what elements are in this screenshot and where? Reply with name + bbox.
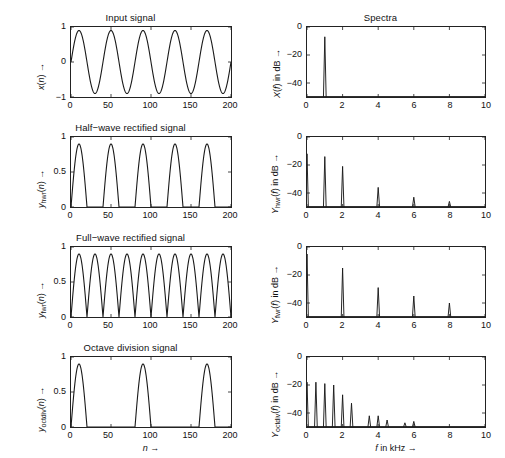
xlabel-time-domain: n → <box>70 443 232 453</box>
ytick-spec-fwr-0: 0 <box>280 242 302 251</box>
ytick-hwr-1: 1 <box>44 132 66 141</box>
xtick-spec-fwr-8: 8 <box>442 321 458 330</box>
xtick-hwr-0: 0 <box>62 211 78 220</box>
xtick-input-200: 200 <box>218 101 242 110</box>
xtick-spec-oct-6: 6 <box>406 431 422 440</box>
xtick-spec-hwr-6: 6 <box>406 211 422 220</box>
axes-spectrum-full-wave <box>306 246 486 318</box>
ytick-fwr-1: 1 <box>44 242 66 251</box>
xtick-oct-150: 150 <box>178 431 202 440</box>
xtick-spec-oct-4: 4 <box>370 431 386 440</box>
xtick-oct-50: 50 <box>98 431 118 440</box>
ylabel-full-wave-signal: yfwr(n) → <box>36 282 49 318</box>
panel-spectrum-input: Spectra 0 −20 −40 0 2 4 6 8 10 X(f) in d… <box>268 12 493 108</box>
panel-spectrum-octave-division: 0 −20 −40 0 2 4 6 8 10 Yoctdiv(f) in dB … <box>268 342 493 454</box>
xlabel-frequency: f in kHz → <box>306 443 486 453</box>
ylabel-spectrum-octave-division: Yoctdiv(f) in dB → <box>270 371 283 438</box>
ylabel-spectrum-input: X(f) in dB → <box>272 49 282 98</box>
ytick-spec-oct-0: 0 <box>280 352 302 361</box>
xtick-input-100: 100 <box>138 101 162 110</box>
xtick-input-0: 0 <box>62 101 78 110</box>
panel-input-signal: Input signal 1 0 −1 0 50 100 150 200 x(n… <box>28 12 233 108</box>
xtick-spec-fwr-4: 4 <box>370 321 386 330</box>
axes-input-signal <box>70 26 232 98</box>
xtick-spec-input-8: 8 <box>442 101 458 110</box>
axes-spectrum-half-wave <box>306 136 486 208</box>
axes-octave-division-signal <box>70 356 232 428</box>
figure-root: Input signal 1 0 −1 0 50 100 150 200 x(n… <box>0 0 505 458</box>
ylabel-octave-division-signal: yoctdiv(n) → <box>36 387 49 432</box>
xtick-spec-fwr-6: 6 <box>406 321 422 330</box>
ytick-input-1: 1 <box>44 22 66 31</box>
xtick-spec-hwr-0: 0 <box>298 211 314 220</box>
xtick-spec-input-4: 4 <box>370 101 386 110</box>
ylabel-spectrum-full-wave: Yfwr(f) in dB → <box>270 266 283 324</box>
axes-spectrum-octave-division <box>306 356 486 428</box>
xtick-spec-hwr-10: 10 <box>476 211 496 220</box>
xtick-spec-hwr-4: 4 <box>370 211 386 220</box>
xtick-spec-fwr-0: 0 <box>298 321 314 330</box>
xtick-oct-200: 200 <box>218 431 242 440</box>
xtick-hwr-50: 50 <box>98 211 118 220</box>
ytick-spec-input-0: 0 <box>280 22 302 31</box>
xtick-oct-100: 100 <box>138 431 162 440</box>
xtick-spec-hwr-2: 2 <box>334 211 350 220</box>
xtick-fwr-0: 0 <box>62 321 78 330</box>
xtick-spec-oct-10: 10 <box>476 431 496 440</box>
xtick-spec-fwr-2: 2 <box>334 321 350 330</box>
xtick-fwr-200: 200 <box>218 321 242 330</box>
xtick-fwr-50: 50 <box>98 321 118 330</box>
xtick-spec-hwr-8: 8 <box>442 211 458 220</box>
panel-spectrum-half-wave: 0 −20 −40 0 2 4 6 8 10 Yhwr(f) in dB → <box>268 122 493 218</box>
xtick-spec-oct-2: 2 <box>334 431 350 440</box>
xtick-hwr-200: 200 <box>218 211 242 220</box>
axes-full-wave-signal <box>70 246 232 318</box>
ytick-spec-hwr-0: 0 <box>280 132 302 141</box>
xtick-spec-fwr-10: 10 <box>476 321 496 330</box>
xtick-fwr-150: 150 <box>178 321 202 330</box>
xtick-spec-input-0: 0 <box>298 101 314 110</box>
xtick-spec-oct-8: 8 <box>442 431 458 440</box>
axes-spectrum-input <box>306 26 486 98</box>
xtick-oct-0: 0 <box>62 431 78 440</box>
panel-full-wave-signal: Full−wave rectified signal 1 0.5 0 0 50 … <box>28 232 233 328</box>
ytick-input-0: 0 <box>44 57 66 66</box>
xtick-fwr-100: 100 <box>138 321 162 330</box>
ylabel-spectrum-half-wave: Yhwr(f) in dB → <box>270 154 283 214</box>
panel-half-wave-signal: Half−wave rectified signal 1 0.5 0 0 50 … <box>28 122 233 218</box>
xtick-spec-input-6: 6 <box>406 101 422 110</box>
panel-spectrum-full-wave: 0 −20 −40 0 2 4 6 8 10 Yfwr(f) in dB → <box>268 232 493 328</box>
xtick-hwr-150: 150 <box>178 211 202 220</box>
ylabel-half-wave-signal: yhwr(n) → <box>36 170 49 208</box>
xtick-input-50: 50 <box>98 101 118 110</box>
xtick-input-150: 150 <box>178 101 202 110</box>
ytick-oct-1: 1 <box>44 352 66 361</box>
xtick-spec-input-2: 2 <box>334 101 350 110</box>
xtick-spec-oct-0: 0 <box>298 431 314 440</box>
panel-octave-division-signal: Octave division signal 1 0.5 0 0 50 100 … <box>28 342 233 454</box>
axes-half-wave-signal <box>70 136 232 208</box>
xtick-hwr-100: 100 <box>138 211 162 220</box>
xtick-spec-input-10: 10 <box>476 101 496 110</box>
ylabel-input-signal: x(n) → <box>36 63 46 90</box>
